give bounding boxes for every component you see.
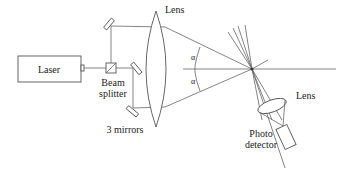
- photodetector: [276, 124, 296, 149]
- optical-setup-diagram: Laser Lens α α Len: [0, 0, 347, 179]
- beam-splitter-label-line1: Beam: [101, 77, 125, 88]
- main-lens-label: Lens: [165, 4, 185, 15]
- mirror-top: [104, 18, 115, 30]
- laser-label: Laser: [38, 64, 61, 75]
- mirror-bottom: [126, 106, 139, 117]
- detector-label-line2: detector: [245, 139, 278, 150]
- converging-beam-lower: [165, 69, 252, 107]
- beam-splitter: [106, 63, 116, 73]
- focal-point: [250, 67, 253, 70]
- angle-label-upper: α: [191, 53, 196, 62]
- detector-beam-left: [259, 112, 283, 126]
- mirrors-label: 3 mirrors: [107, 124, 144, 135]
- detector-lens: [256, 95, 288, 117]
- main-lens: [146, 11, 166, 127]
- beam-splitter-label-line2: splitter: [99, 88, 127, 99]
- angle-arc-upper: [195, 47, 200, 66]
- converging-beam-upper: [165, 27, 252, 69]
- angle-label-lower: α: [191, 77, 196, 86]
- angle-arc-lower: [195, 72, 200, 91]
- laser: Laser: [18, 56, 84, 82]
- detector-lens-label: Lens: [296, 90, 316, 101]
- detector-label-line1: Photo: [249, 128, 272, 139]
